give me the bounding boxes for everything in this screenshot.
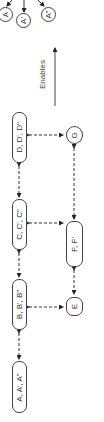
node-label: A [1, 12, 10, 17]
node-d-group: D, D', D" [12, 112, 27, 163]
node-label: G [70, 132, 79, 138]
node-label: A' [19, 17, 28, 24]
node-a-prime: A' [16, 13, 31, 28]
legend-label: Enables [38, 55, 47, 95]
arrow-to-a [7, 0, 12, 6]
node-c-group: C, C', C" [12, 199, 27, 250]
node-a-group: A, A', A" [12, 361, 27, 413]
node-b-group: B, B', B" [12, 279, 27, 330]
node-label: A" [44, 10, 53, 18]
node-a-double-prime: A" [41, 7, 56, 22]
node-label: A, A', A" [15, 373, 24, 401]
node-label: C, C', C" [15, 209, 24, 240]
node-f-group: F, F' [66, 221, 83, 267]
node-label: E [70, 304, 79, 309]
node-e: E [66, 297, 83, 316]
node-g: G [66, 126, 83, 144]
node-label: F, F' [70, 237, 79, 252]
node-label: B, B', B" [15, 290, 24, 319]
node-label: D, D', D" [15, 122, 24, 153]
arrow-to-a-double-prime [38, 0, 44, 6]
